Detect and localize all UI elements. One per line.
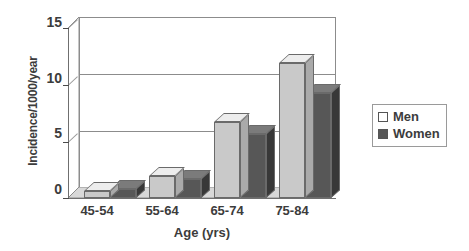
chart-figure: Incidence/1000/year 15 10 5 0 (0, 0, 469, 251)
bar-men-65-74 (214, 122, 240, 198)
y-tick-label-0: 0 (38, 182, 62, 196)
bars-layer (68, 17, 336, 199)
y-tick-label-10: 10 (38, 71, 62, 85)
legend-item-men: Men (378, 108, 440, 125)
x-tick-label-55-64: 55-64 (127, 203, 197, 218)
bar-face (279, 63, 305, 198)
bar-men-75-84 (279, 63, 305, 198)
bar-side (266, 126, 275, 198)
legend-label-men: Men (393, 109, 419, 124)
legend-swatch-men-icon (378, 112, 388, 122)
x-tick-label-65-74: 65-74 (192, 203, 262, 218)
bar-side (240, 114, 249, 198)
x-tick-label-45-54: 45-54 (62, 203, 132, 218)
bar-men-55-64 (149, 176, 175, 198)
y-tick-label-15: 15 (38, 15, 62, 29)
x-axis-title: Age (yrs) (68, 225, 336, 240)
chart-legend: Men Women (372, 104, 447, 147)
bar-side (305, 55, 314, 198)
y-axis-title: Incidence/1000/year (26, 31, 40, 191)
bar-face (214, 122, 240, 198)
bar-face (84, 191, 110, 198)
legend-item-women: Women (378, 125, 440, 142)
bar-side (331, 85, 340, 198)
legend-label-women: Women (393, 126, 440, 141)
bar-face (149, 176, 175, 198)
bar-men-45-54 (84, 191, 110, 198)
legend-swatch-women-icon (378, 129, 388, 139)
x-tick-label-75-84: 75-84 (257, 203, 327, 218)
plot-area (68, 17, 336, 199)
y-tick-label-5: 5 (38, 126, 62, 140)
